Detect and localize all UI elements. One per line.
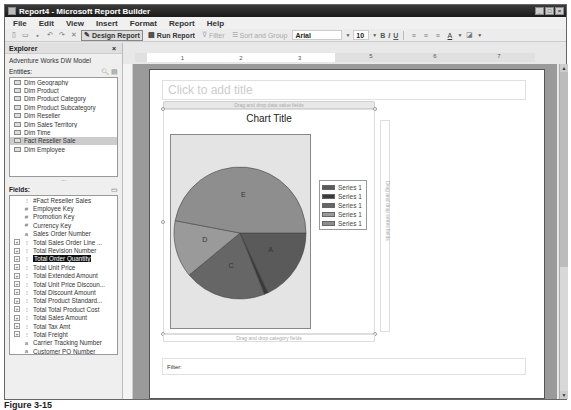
search-icon[interactable]: 🔍︎ ▤ [101,68,118,76]
align-right-icon[interactable]: ≡ [433,31,442,40]
field-item[interactable]: +⁝Total Tax Amt [10,322,117,330]
entity-item[interactable]: Dim Product Subcategory [10,103,117,111]
delete-icon[interactable]: ✕ [69,31,78,40]
folder-icon[interactable]: ▭ [111,186,118,194]
sort-group-button[interactable]: ☰Sort and Group [230,30,290,41]
size-dropdown-icon[interactable]: ▼ [372,32,377,38]
field-item[interactable]: aSales Order Number [10,230,117,238]
menu-insert[interactable]: Insert [96,19,118,28]
field-item[interactable]: +⁝Total Discount Amount [10,288,117,296]
expand-icon[interactable]: + [14,248,20,254]
field-item[interactable]: +⁝Total Extended Amount [10,272,117,280]
pane-splitter[interactable]: ⋯ [5,177,122,185]
undo-icon[interactable]: ↶ [45,31,54,40]
report-title-placeholder[interactable]: Click to add title [162,80,526,100]
expand-icon[interactable]: + [14,298,20,304]
expand-icon[interactable]: + [14,273,20,279]
entity-item[interactable]: Dim Reseller [10,112,117,120]
font-dropdown-icon[interactable]: ▼ [345,32,350,38]
italic-button[interactable]: I [388,32,390,39]
scroll-up-icon[interactable]: ▲ [560,64,568,72]
field-item[interactable]: +⁝Total Order Quantity [10,255,117,263]
font-size-select[interactable]: 10 [353,30,369,40]
resize-handle[interactable] [373,107,377,111]
field-item[interactable]: +⁝Total Sales Order Line ... [10,238,117,246]
field-item[interactable]: +⁝Total Sales Amount [10,313,117,321]
font-select[interactable]: Arial [292,30,342,40]
bold-button[interactable]: B [380,32,385,39]
fill-color-dropdown-icon[interactable]: ▼ [477,32,482,38]
scroll-thumb[interactable] [560,72,568,267]
entities-label: Entities: [9,68,32,76]
fill-color-icon[interactable]: ◪ [465,31,474,40]
menu-view[interactable]: View [66,19,84,28]
expand-icon[interactable]: + [14,264,20,270]
aggregate-field-icon: ⁝ [23,323,30,330]
open-icon[interactable]: ▭ [21,31,30,40]
text-field-icon: a [23,231,30,237]
resize-handle[interactable] [161,107,165,111]
expand-icon[interactable]: + [14,289,20,295]
entity-item[interactable]: Dim Time [10,128,117,136]
design-report-button[interactable]: ✎Design Report [81,30,143,41]
align-left-icon[interactable]: ≡ [409,31,418,40]
field-item[interactable]: #Employee Key [10,204,117,212]
entity-item[interactable]: Dim Sales Territory [10,120,117,128]
field-item[interactable]: ⁝#Fact Reseller Sales [10,196,117,204]
chart[interactable]: Chart Title ACDE Series 1Series 1Series … [163,109,375,334]
explorer-title: Explorer [9,45,37,52]
resize-handle[interactable] [161,220,165,224]
field-item[interactable]: +⁝Total Revision Number [10,246,117,254]
explorer-pane: Explorer× Adventure Works DW Model Entit… [5,43,123,399]
field-item[interactable]: +⁝Total Product Standard... [10,297,117,305]
expand-icon[interactable]: + [14,323,20,329]
menu-file[interactable]: File [13,19,27,28]
font-color-icon[interactable]: A [445,31,454,40]
minimize-button[interactable]: _ [535,7,544,15]
entity-item-selected[interactable]: Fact Reseller Sale [10,137,117,145]
entity-item[interactable]: Dim Geography [10,78,117,86]
entity-item[interactable]: Dim Product Category [10,95,117,103]
expand-icon[interactable]: + [14,306,20,312]
scroll-down-icon[interactable]: ▼ [560,391,568,399]
vertical-scrollbar[interactable]: ▲ ▼ [559,64,568,399]
expand-icon[interactable]: + [14,239,20,245]
entity-item[interactable]: Dim Product [10,86,117,94]
aggregate-field-icon: ⁝ [23,281,30,288]
field-item[interactable]: aCarrier Tracking Number [10,339,117,347]
align-center-icon[interactable]: ≡ [421,31,430,40]
menu-report[interactable]: Report [169,19,195,28]
aggregate-field-icon: ⁝ [23,247,30,254]
underline-button[interactable]: U [393,32,398,39]
data-fields-drop-zone[interactable]: Drag and drop data value fields [163,101,375,109]
maximize-button[interactable]: □ [545,7,554,15]
entity-item[interactable]: Dim Employee [10,145,117,153]
expand-icon[interactable]: + [14,315,20,321]
redo-icon[interactable]: ↷ [57,31,66,40]
field-item[interactable]: aCustomer PO Number [10,347,117,355]
expand-icon[interactable]: + [14,256,20,262]
new-icon[interactable]: ▯ [9,31,18,40]
save-icon[interactable]: ▪ [33,31,42,40]
chart-title[interactable]: Chart Title [164,113,374,124]
field-item[interactable]: +⁝Total Unit Price Discoun... [10,280,117,288]
run-report-button[interactable]: ▤Run Report [146,30,197,41]
window-title: Report4 - Microsoft Report Builder [19,7,535,16]
menu-help[interactable]: Help [207,19,224,28]
close-explorer-icon[interactable]: × [112,45,116,52]
series-fields-drop-zone[interactable]: Drag and drop series fields [380,120,390,332]
filter-button[interactable]: ⊽Filter [200,30,227,41]
field-item[interactable]: #Promotion Key [10,213,117,221]
field-item[interactable]: +⁝Total Unit Price [10,263,117,271]
expand-icon[interactable]: + [14,281,20,287]
close-button[interactable]: × [555,7,564,15]
field-item[interactable]: +⁝Total Total Product Cost [10,305,117,313]
category-fields-drop-zone[interactable]: Drag and drop category fields [163,334,375,342]
expand-icon[interactable]: + [14,331,20,337]
field-item[interactable]: #Currency Key [10,221,117,229]
menu-edit[interactable]: Edit [39,19,54,28]
filter-box[interactable]: Filter: [162,358,526,375]
menu-format[interactable]: Format [130,19,157,28]
field-item[interactable]: +⁝Total Freight [10,330,117,338]
font-color-dropdown-icon[interactable]: ▼ [457,32,462,38]
